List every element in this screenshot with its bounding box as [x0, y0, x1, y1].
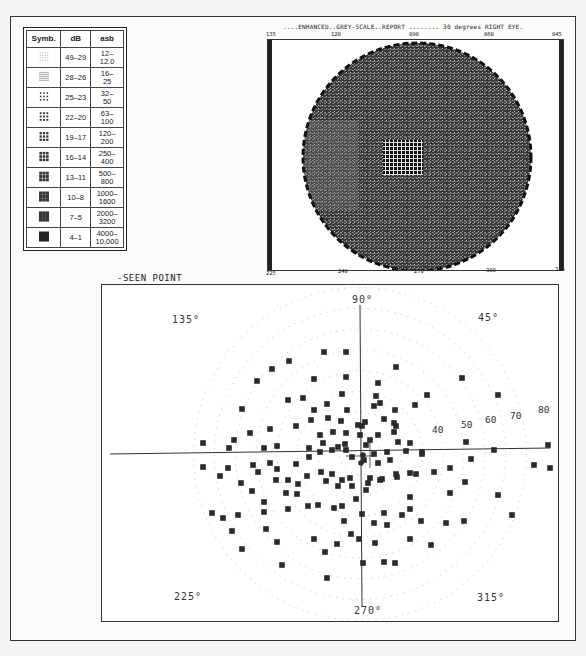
missed-10000-marker — [343, 430, 349, 436]
missed-10000-marker — [349, 454, 355, 460]
missed-10000-marker — [428, 542, 434, 548]
legend-db-cell: 28–26 — [61, 68, 91, 88]
density-symbol-icon — [38, 231, 50, 242]
eccentricity-label: 40 — [432, 424, 444, 435]
legend-db-cell: 13–11 — [61, 168, 91, 188]
top-tick-090: 090 — [409, 31, 419, 37]
missed-10000-marker — [311, 536, 317, 542]
missed-10000-marker — [407, 470, 413, 476]
missed-10000-marker — [381, 559, 387, 565]
missed-10000-marker — [395, 439, 401, 445]
legend-asb-cell: 250– 400 — [91, 148, 124, 168]
missed-10000-marker — [424, 392, 430, 398]
missed-10000-marker — [463, 439, 469, 445]
legend-symbol-cell — [27, 208, 61, 228]
legend-header-symbol: Symb. — [27, 31, 61, 48]
legend-symbol-cell — [27, 68, 61, 88]
missed-10000-marker — [286, 358, 292, 364]
missed-10000-marker — [339, 477, 345, 483]
polar-threshold-chart: 90°45°135°225°270°315°4050607080 — [101, 284, 559, 622]
missed-10000-marker — [393, 423, 399, 429]
polar-chart-canvas: 90°45°135°225°270°315°4050607080 — [102, 285, 558, 621]
density-symbol-icon — [38, 51, 50, 62]
missed-10000-marker — [261, 499, 267, 505]
missed-10000-marker — [247, 430, 253, 436]
eccentricity-label: 70 — [510, 410, 522, 421]
missed-10000-marker — [274, 443, 280, 449]
legend-symbol-cell — [27, 228, 61, 248]
missed-10000-marker — [209, 510, 215, 516]
missed-10000-marker — [348, 531, 354, 537]
missed-10000-marker — [285, 477, 291, 483]
missed-10000-marker — [403, 448, 409, 454]
missed-10000-marker — [363, 442, 369, 448]
bottom-tick-300: 300 — [486, 267, 496, 273]
missed-3200-marker — [358, 460, 364, 466]
missed-10000-marker — [239, 406, 245, 412]
legend-row: 13–11500– 800 — [27, 168, 124, 188]
density-symbol-icon — [38, 91, 50, 102]
legend-asb-cell: 1000– 1600 — [91, 188, 124, 208]
legend-db-cell: 19–17 — [61, 128, 91, 148]
missed-10000-marker — [545, 442, 551, 448]
missed-10000-marker — [324, 401, 330, 407]
missed-10000-marker — [509, 512, 515, 518]
bottom-tick-240: 240 — [338, 268, 348, 274]
missed-10000-marker — [412, 402, 418, 408]
legend-symbol-cell — [27, 168, 61, 188]
legend-db-cell: 16–14 — [61, 148, 91, 168]
legend-header-asb: asb — [91, 31, 124, 48]
legend-db-cell: 7–5 — [61, 208, 91, 228]
missed-10000-marker — [377, 477, 383, 483]
legend-row: 25–2332– 50 — [27, 88, 124, 108]
missed-10000-marker — [274, 539, 280, 545]
missed-10000-marker — [356, 536, 362, 542]
missed-10000-marker — [283, 490, 289, 496]
legend-asb-cell: 500– 800 — [91, 168, 124, 188]
missed-10000-marker — [267, 460, 273, 466]
missed-10000-marker — [200, 464, 206, 470]
missed-10000-marker — [324, 575, 330, 581]
legend-symbol-cell — [27, 88, 61, 108]
density-symbol-icon — [38, 71, 50, 82]
legend-asb-cell: 63– 100 — [91, 108, 124, 128]
missed-10000-marker — [357, 432, 363, 438]
density-symbol-icon — [38, 211, 50, 222]
bottom-tick-315: 315 — [555, 266, 565, 272]
legend-symbol-cell — [27, 188, 61, 208]
missed-10000-marker — [407, 506, 413, 512]
missed-10000-marker — [294, 491, 300, 497]
missed-10000-marker — [391, 429, 397, 435]
greyscale-report-title: ....ENHANCED..GREY-SCALE..REPORT .......… — [283, 23, 523, 30]
missed-10000-marker — [468, 456, 474, 462]
missed-10000-marker — [367, 437, 373, 443]
missed-10000-marker — [261, 445, 267, 451]
missed-10000-marker — [363, 487, 369, 493]
missed-10000-marker — [335, 444, 341, 450]
missed-10000-marker — [392, 407, 398, 413]
missed-10000-marker — [381, 416, 387, 422]
missed-10000-marker — [322, 549, 328, 555]
missed-10000-marker — [377, 400, 383, 406]
legend-row: 4–14000– 10,000 — [27, 228, 124, 248]
missed-10000-marker — [331, 505, 337, 511]
legend-row: 28–2616– 25 — [27, 68, 124, 88]
density-symbol-icon — [38, 151, 50, 162]
missed-10000-marker — [462, 479, 468, 485]
missed-10000-marker — [344, 407, 350, 413]
angle-label: 45° — [478, 312, 499, 323]
missed-10000-marker — [239, 546, 245, 552]
missed-10000-marker — [381, 510, 387, 516]
missed-10000-marker — [431, 469, 437, 475]
missed-10000-marker — [263, 526, 269, 532]
legend-asb-cell: 12– 12.0 — [91, 48, 124, 68]
missed-10000-marker — [459, 375, 465, 381]
missed-10000-marker — [343, 349, 349, 355]
angle-label: 90° — [352, 294, 373, 305]
angle-label: 135° — [172, 314, 200, 325]
perimetry-printout: Symb. dB asb 49–2912– 12.028–2616– 2525–… — [10, 16, 576, 641]
missed-10000-marker — [329, 447, 335, 453]
missed-10000-marker — [347, 475, 353, 481]
legend-db-cell: 49–29 — [61, 48, 91, 68]
missed-10000-marker — [255, 469, 261, 475]
